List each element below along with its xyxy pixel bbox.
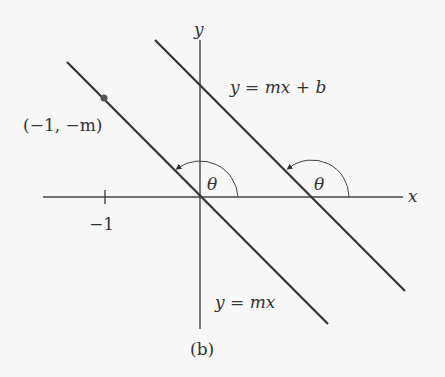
line-y-mx-label: y = mx	[214, 292, 276, 312]
line-y-mx	[67, 62, 328, 324]
line-y-mx-plus-b-label: y = mx + b	[229, 77, 326, 97]
point-marker	[101, 95, 108, 102]
angle-label-1: θ	[207, 174, 217, 194]
angle-label-2: θ	[314, 174, 324, 194]
tick-label: −1	[89, 214, 114, 234]
caption: (b)	[190, 339, 214, 359]
x-axis-label: x	[408, 186, 418, 206]
y-axis-label: y	[193, 19, 204, 39]
diagram: x y −1 (−1, −m) y = mx y = mx + b θ θ (b…	[0, 0, 445, 377]
point-label: (−1, −m)	[23, 115, 103, 135]
